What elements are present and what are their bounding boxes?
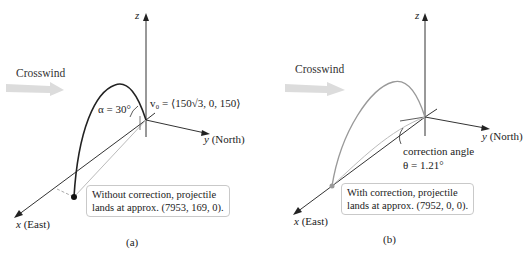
y-axis <box>146 120 205 133</box>
x-axis-label: x (East) <box>16 219 50 230</box>
panel-a-without-correction: Crosswind z y (North) x (East) α = 30° v… <box>0 0 265 253</box>
correction-angle-label: correction angle <box>403 146 474 157</box>
x-axis-arrowhead-icon <box>14 210 23 218</box>
y-axis-label: y (North) <box>482 131 523 142</box>
crosswind-label: Crosswind <box>16 67 65 79</box>
z-axis-arrowhead-icon <box>422 13 428 21</box>
callout-line-1: With correction, projectile <box>347 186 468 199</box>
z-axis-label: z <box>135 10 139 21</box>
x-axis-var: x <box>294 215 299 227</box>
callout-line-2: lands at approx. (7952, 0, 0). <box>347 199 468 212</box>
x-axis-arrowhead-icon <box>293 207 302 215</box>
correction-angle-value: θ = 1.21° <box>403 160 444 171</box>
z-axis-arrowhead-icon <box>143 13 149 21</box>
x-axis-var: x <box>16 218 21 230</box>
x-axis-direction: (East) <box>302 215 328 227</box>
landing-point <box>330 184 335 189</box>
callout-line-1: Without correction, projectile <box>92 188 224 201</box>
x-axis-direction: (East) <box>24 218 50 230</box>
crosswind-arrow-icon <box>6 82 64 96</box>
initial-velocity-label: v₀ = ⟨150√3, 0, 150⟩ <box>150 98 241 109</box>
landing-callout: With correction, projectile lands at app… <box>341 183 474 215</box>
y-axis-var: y <box>204 133 209 145</box>
y-axis-direction: (North) <box>212 133 245 145</box>
crosswind-arrow-icon <box>285 82 345 96</box>
callout-line-2: lands at approx. (7953, 169, 0). <box>92 201 224 214</box>
y-axis-label: y (North) <box>204 134 245 145</box>
panel-b-with-correction: Crosswind z y (North) x (East) correctio… <box>265 0 529 253</box>
panel-caption: (b) <box>383 233 396 245</box>
crosswind-label: Crosswind <box>295 63 344 75</box>
y-axis <box>425 117 485 128</box>
landing-point <box>71 194 77 200</box>
z-axis-label: z <box>415 10 419 21</box>
panel-caption: (a) <box>126 236 138 248</box>
y-axis-var: y <box>482 130 487 142</box>
y-axis-direction: (North) <box>490 130 523 142</box>
landing-callout: Without correction, projectile lands at … <box>86 185 230 217</box>
x-axis-label: x (East) <box>294 216 328 227</box>
launch-angle-label: α = 30° <box>98 104 131 115</box>
trajectory-path <box>74 84 146 197</box>
